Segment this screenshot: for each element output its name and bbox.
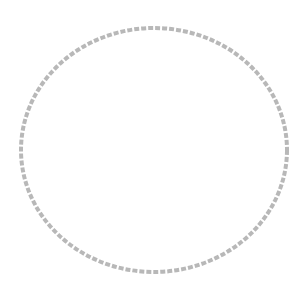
circle-outline — [21, 28, 287, 272]
canvas — [0, 0, 305, 294]
empty-circle-icon — [0, 0, 305, 294]
